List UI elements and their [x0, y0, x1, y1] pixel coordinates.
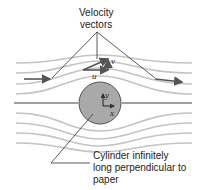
cylinder-label-line3: paper: [93, 174, 119, 185]
velocity-vectors-label-line1: Velocity: [79, 7, 113, 18]
u-component-label: u: [92, 71, 97, 81]
v-component-label: v: [111, 56, 115, 66]
velocity-vectors-label-line2: vectors: [80, 19, 112, 30]
x-axis-label: x: [109, 108, 114, 118]
cylinder-label-line2: long perpendicular to: [93, 162, 187, 173]
y-axis-label: y: [104, 90, 109, 100]
flow-around-cylinder-diagram: y x u v Velocity vectors Cylinder infini…: [0, 0, 202, 190]
cylinder: [79, 82, 121, 124]
cylinder-label-line1: Cylinder infinitely: [93, 150, 169, 161]
